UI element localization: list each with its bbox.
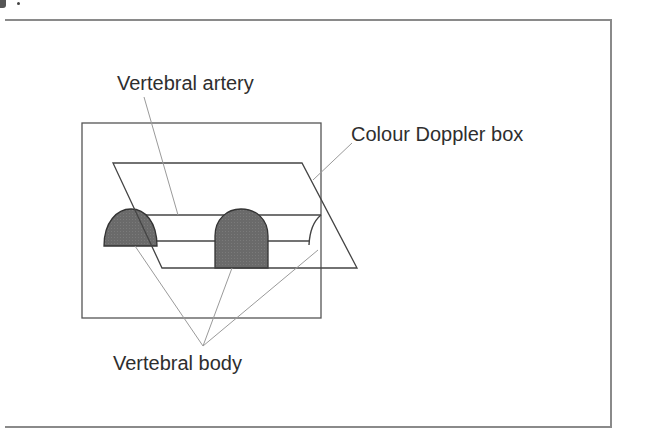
label-vertebral-artery: Vertebral artery <box>117 72 254 95</box>
ultrasound-diagram <box>0 0 647 430</box>
label-colour-doppler-box: Colour Doppler box <box>351 123 523 146</box>
vertebral-body-middle <box>215 209 268 268</box>
figure-frame <box>5 20 611 427</box>
label-vertebral-body: Vertebral body <box>113 352 242 375</box>
